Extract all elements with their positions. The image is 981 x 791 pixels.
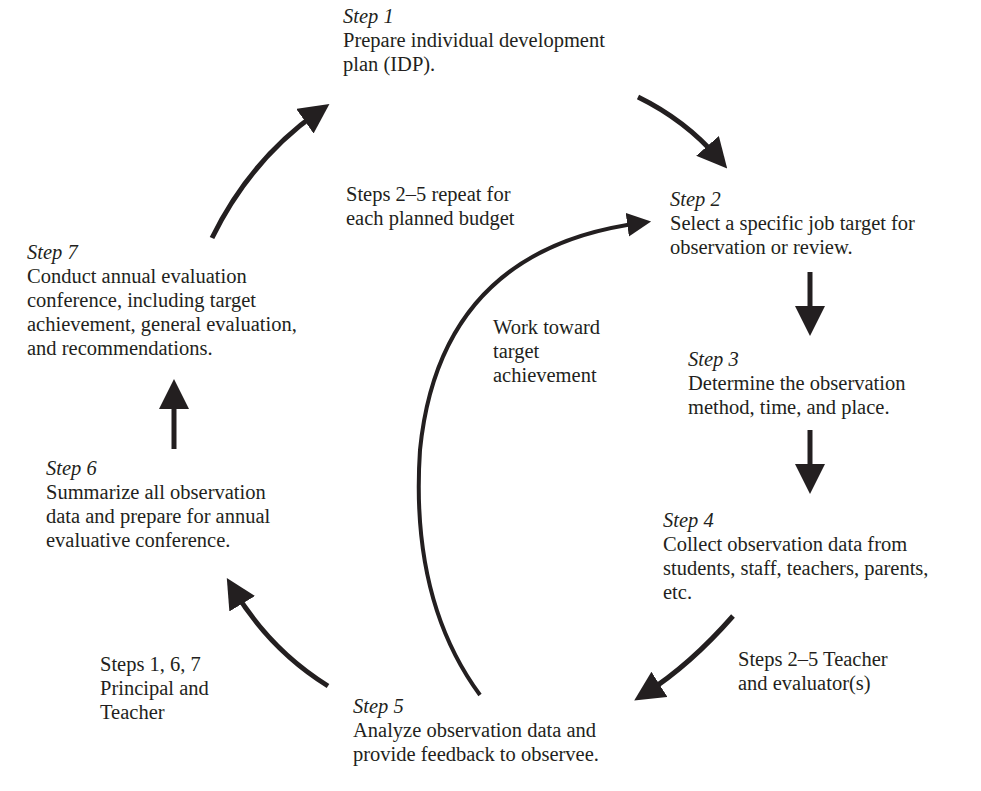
step-2-label: Step 2 (670, 187, 915, 211)
step-6: Step 6 Summarize all observation data an… (46, 456, 270, 552)
arrow-step5-to-step6 (234, 590, 328, 686)
step-4-text: etc. (663, 580, 928, 604)
step-1-text: plan (IDP). (343, 52, 605, 76)
arrow-step4-to-step5 (646, 616, 733, 693)
arrow-step7-to-step1 (212, 112, 318, 238)
note-repeat-line: each planned budget (346, 206, 514, 230)
note-principal-teacher: Steps 1, 6, 7 Principal and Teacher (100, 652, 209, 724)
note-principal-teacher-line: Principal and (100, 676, 209, 700)
note-teacher-evaluator-line: and evaluator(s) (738, 671, 888, 695)
step-4-text: students, staff, teachers, parents, (663, 556, 928, 580)
step-3-text: method, time, and place. (688, 395, 905, 419)
step-6-label: Step 6 (46, 456, 270, 480)
step-7: Step 7 Conduct annual evaluation confere… (27, 240, 297, 360)
step-4: Step 4 Collect observation data from stu… (663, 508, 928, 604)
step-6-text: Summarize all observation (46, 480, 270, 504)
step-5-text: Analyze observation data and (353, 718, 599, 742)
step-4-label: Step 4 (663, 508, 928, 532)
step-3-text: Determine the observation (688, 371, 905, 395)
arrow-step5-to-step2-arc (419, 223, 640, 695)
step-3-label: Step 3 (688, 347, 905, 371)
step-5: Step 5 Analyze observation data and prov… (353, 694, 599, 766)
step-2-text: observation or review. (670, 235, 915, 259)
note-principal-teacher-line: Steps 1, 6, 7 (100, 652, 209, 676)
step-2: Step 2 Select a specific job target for … (670, 187, 915, 259)
step-1-text: Prepare individual development (343, 28, 605, 52)
note-work-line: Work toward (493, 315, 600, 339)
step-2-text: Select a specific job target for (670, 211, 915, 235)
note-teacher-evaluator-line: Steps 2–5 Teacher (738, 647, 888, 671)
step-5-text: provide feedback to observee. (353, 742, 599, 766)
note-principal-teacher-line: Teacher (100, 700, 209, 724)
step-4-text: Collect observation data from (663, 532, 928, 556)
step-3: Step 3 Determine the observation method,… (688, 347, 905, 419)
note-work-line: target (493, 339, 600, 363)
note-work-line: achievement (493, 363, 600, 387)
step-6-text: data and prepare for annual (46, 504, 270, 528)
arrow-step1-to-step2 (638, 97, 718, 158)
step-7-text: Conduct annual evaluation (27, 264, 297, 288)
step-1-label: Step 1 (343, 4, 605, 28)
step-6-text: evaluative conference. (46, 528, 270, 552)
note-teacher-evaluator: Steps 2–5 Teacher and evaluator(s) (738, 647, 888, 695)
step-5-label: Step 5 (353, 694, 599, 718)
step-7-text: conference, including target (27, 288, 297, 312)
step-7-text: and recommendations. (27, 336, 297, 360)
step-1: Step 1 Prepare individual development pl… (343, 4, 605, 76)
note-repeat-line: Steps 2–5 repeat for (346, 182, 514, 206)
note-work-toward: Work toward target achievement (493, 315, 600, 387)
step-7-label: Step 7 (27, 240, 297, 264)
note-repeat: Steps 2–5 repeat for each planned budget (346, 182, 514, 230)
step-7-text: achievement, general evaluation, (27, 312, 297, 336)
